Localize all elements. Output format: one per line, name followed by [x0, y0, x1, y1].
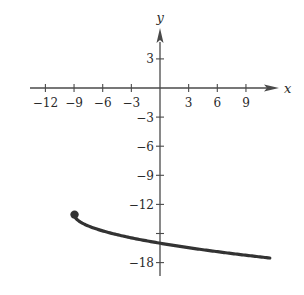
x-tick-label: −6: [94, 96, 112, 110]
y-axis-label: y: [156, 10, 165, 25]
y-tick-label: −12: [129, 198, 154, 212]
curve: [70, 210, 269, 258]
function-curve: [74, 214, 270, 258]
x-tick-label: −12: [33, 96, 58, 110]
y-tick-label: 3: [146, 52, 154, 66]
endpoint-dot: [70, 210, 78, 218]
x-tick-label: 9: [242, 96, 250, 110]
x-tick-label: −9: [65, 96, 83, 110]
plot-area: −12−9−6−33693−3−6−9−12−18 x y: [0, 0, 304, 295]
y-tick-label: −3: [136, 111, 154, 125]
function-graph: −12−9−6−33693−3−6−9−12−18 x y: [0, 0, 304, 295]
y-tick-label: −18: [129, 256, 154, 270]
x-axis-label: x: [284, 81, 292, 96]
axes: [30, 28, 279, 276]
x-tick-label: 6: [213, 96, 221, 110]
y-tick-label: −6: [136, 140, 154, 154]
x-tick-label: 3: [185, 96, 193, 110]
y-tick-label: −9: [136, 169, 154, 183]
y-axis-arrow-icon: [157, 28, 164, 43]
x-tick-label: −3: [122, 96, 140, 110]
ticks: −12−9−6−33693−3−6−9−12−18: [33, 52, 250, 270]
